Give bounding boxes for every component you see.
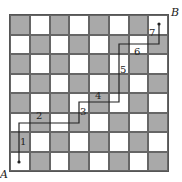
segment-label: 7	[149, 27, 155, 38]
end-point-icon	[157, 22, 160, 25]
label-a: A	[0, 168, 8, 181]
segment-label: 5	[120, 64, 126, 75]
start-point-icon	[17, 160, 20, 163]
segment-label: 2	[36, 110, 42, 121]
segment-label: 3	[80, 106, 86, 117]
segment-label: 1	[20, 136, 26, 147]
segment-label: 6	[134, 46, 140, 57]
segment-label: 4	[95, 90, 101, 101]
label-b: B	[171, 6, 179, 19]
